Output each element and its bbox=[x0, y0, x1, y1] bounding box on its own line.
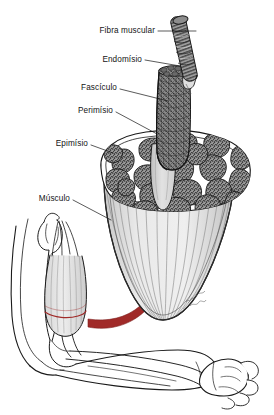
label-epimisio: Epimísio bbox=[0, 140, 88, 148]
label-endomisio: Endomísio bbox=[0, 56, 142, 64]
label-musculo: Músculo bbox=[0, 195, 70, 203]
label-fasciculo: Fascículo bbox=[0, 84, 117, 92]
muscle-anatomy-figure: Fibra muscular Endomísio Fascículo Perim… bbox=[0, 0, 274, 415]
label-fibra-muscular: Fibra muscular bbox=[0, 27, 155, 35]
leader-perimisio bbox=[116, 112, 157, 134]
leader-endomisio bbox=[145, 60, 180, 66]
label-perimisio: Perimísio bbox=[0, 107, 113, 115]
